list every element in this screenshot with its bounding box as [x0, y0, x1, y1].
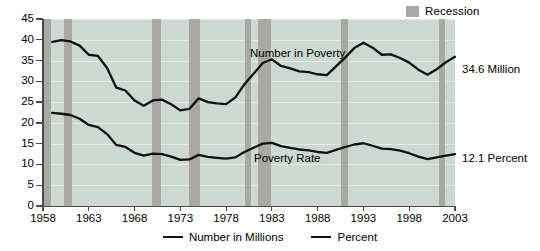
x-axis-tick-label: 1978 [206, 212, 246, 224]
x-axis-tick [271, 206, 272, 211]
y-axis-tick-label: 10 [10, 158, 34, 170]
y-axis-tick-label: 30 [10, 75, 34, 87]
y-axis-tick-label: 25 [10, 96, 34, 108]
y-axis-tick [36, 81, 43, 82]
x-axis-tick-label: 1973 [160, 212, 200, 224]
end-label-rate: 12.1 Percent [462, 152, 527, 164]
x-axis-tick [88, 206, 89, 211]
x-axis-tick [226, 206, 227, 211]
recession-legend: Recession [406, 5, 480, 17]
x-axis-tick-label: 1968 [115, 212, 155, 224]
legend-label-percent: Percent [337, 231, 377, 243]
x-axis-tick-label: 1998 [389, 212, 429, 224]
x-axis-tick [363, 206, 364, 211]
legend-line-icon [311, 236, 331, 238]
y-axis-tick [36, 143, 43, 144]
y-axis-tick-label: 20 [10, 117, 34, 129]
legend-item-percent: Percent [311, 231, 377, 243]
x-axis-tick [454, 206, 455, 211]
y-axis-tick-label: 45 [10, 13, 34, 25]
series-lines [43, 19, 455, 206]
x-axis-tick-label: 1958 [23, 212, 63, 224]
y-axis-tick-label: 40 [10, 34, 34, 46]
x-axis-tick [317, 206, 318, 211]
y-axis-tick-label: 15 [10, 138, 34, 150]
y-axis-tick-label: 0 [10, 200, 34, 212]
y-axis-tick [36, 122, 43, 123]
y-axis-tick [36, 60, 43, 61]
legend-line-icon [163, 236, 183, 238]
recession-legend-label: Recession [425, 5, 480, 17]
x-axis-tick-label: 1988 [298, 212, 338, 224]
annotation-number-in-poverty: Number in Poverty [250, 47, 345, 59]
y-axis-tick [36, 164, 43, 165]
legend-label-number-in-millions: Number in Millions [189, 231, 284, 243]
recession-swatch-icon [406, 6, 419, 17]
x-axis-tick-label: 1993 [343, 212, 383, 224]
y-axis-tick [36, 185, 43, 186]
poverty-chart: Recession 051015202530354045 19581963196… [0, 0, 540, 251]
x-axis-tick [42, 206, 43, 211]
x-axis-tick-label: 1983 [252, 212, 292, 224]
annotation-poverty-rate: Poverty Rate [254, 152, 320, 164]
end-label-number: 34.6 Million [462, 63, 520, 75]
plot-area [43, 19, 455, 206]
y-axis-line [42, 19, 44, 206]
x-axis-line [42, 206, 456, 208]
legend-item-number-in-millions: Number in Millions [163, 231, 284, 243]
x-axis-tick-label: 1963 [69, 212, 109, 224]
x-axis-tick [180, 206, 181, 211]
series-legend: Number in Millions Percent [0, 231, 540, 243]
x-axis-tick-label: 2003 [435, 212, 475, 224]
y-axis-tick [36, 39, 43, 40]
y-axis-tick [36, 101, 43, 102]
y-axis-tick [36, 18, 43, 19]
x-axis-tick [134, 206, 135, 211]
x-axis-tick [409, 206, 410, 211]
y-axis-tick-label: 5 [10, 179, 34, 191]
y-axis-tick-label: 35 [10, 55, 34, 67]
